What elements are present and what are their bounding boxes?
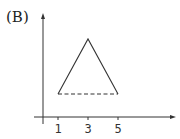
- figure-label: (B): [6, 8, 29, 26]
- x-axis: 1 3 5: [34, 115, 176, 136]
- x-axis-arrow-icon: [170, 115, 176, 119]
- x-tick-label: 1: [54, 122, 61, 136]
- triangle: [58, 39, 118, 94]
- y-axis: [41, 13, 45, 124]
- y-axis-arrow-icon: [41, 13, 45, 19]
- x-tick-label: 5: [114, 122, 121, 136]
- triangle-sides: [58, 39, 118, 94]
- x-tick-label: 3: [84, 122, 91, 136]
- triangle-diagram: (B) 1 3 5: [0, 0, 180, 139]
